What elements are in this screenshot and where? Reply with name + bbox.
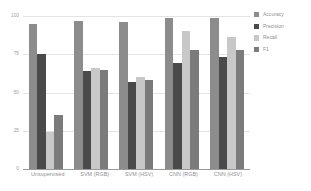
bar[interactable] bbox=[219, 57, 228, 169]
bar[interactable] bbox=[210, 18, 219, 169]
x-tick-label: CNN (HSV) bbox=[214, 172, 242, 184]
bar[interactable] bbox=[119, 22, 128, 169]
y-tick-label: 75 bbox=[14, 52, 19, 57]
bar[interactable] bbox=[227, 37, 236, 169]
bar[interactable] bbox=[190, 50, 199, 169]
bar[interactable] bbox=[74, 21, 83, 169]
legend-item[interactable]: F1 bbox=[254, 47, 284, 52]
legend-item[interactable]: Accuracy bbox=[254, 12, 284, 17]
bar[interactable] bbox=[128, 82, 137, 169]
bar[interactable] bbox=[182, 31, 191, 169]
axis-line-zero: 0 bbox=[23, 169, 250, 170]
legend-label: Recall bbox=[263, 35, 277, 40]
legend-label: F1 bbox=[263, 47, 269, 52]
bar-group bbox=[29, 16, 63, 169]
x-tick-label: CNN (RGB) bbox=[169, 172, 198, 184]
x-axis-tick-labels: UnsupervisedSVM (RGB)SVM (HSV)CNN (RGB)C… bbox=[23, 172, 250, 184]
bar[interactable] bbox=[236, 50, 245, 169]
plot-area: 0255075100 bbox=[23, 16, 250, 169]
legend-label: Accuracy bbox=[263, 12, 284, 17]
y-tick-label: 50 bbox=[14, 90, 19, 95]
bar-group bbox=[119, 16, 153, 169]
legend-swatch-icon bbox=[254, 47, 259, 52]
x-tick-label: SVM (HSV) bbox=[125, 172, 153, 184]
bar[interactable] bbox=[173, 63, 182, 169]
y-tick-label: 0 bbox=[16, 167, 19, 172]
legend-label: Precision bbox=[263, 24, 284, 29]
legend-swatch-icon bbox=[254, 24, 259, 29]
chart-legend: AccuracyPrecisionRecallF1 bbox=[254, 12, 284, 52]
bar[interactable] bbox=[83, 71, 92, 169]
x-tick-label: SVM (RGB) bbox=[80, 172, 109, 184]
bar[interactable] bbox=[37, 54, 46, 169]
bars-layer bbox=[23, 16, 250, 169]
bar[interactable] bbox=[165, 18, 174, 169]
bar[interactable] bbox=[145, 80, 154, 169]
legend-swatch-icon bbox=[254, 12, 259, 17]
y-tick-label: 100 bbox=[11, 14, 19, 19]
legend-item[interactable]: Recall bbox=[254, 35, 284, 40]
bar[interactable] bbox=[91, 68, 100, 169]
bar[interactable] bbox=[29, 24, 38, 169]
y-tick-label: 25 bbox=[14, 128, 19, 133]
legend-swatch-icon bbox=[254, 35, 259, 40]
bar-group bbox=[74, 16, 108, 169]
bar[interactable] bbox=[100, 70, 109, 169]
bar-group bbox=[165, 16, 199, 169]
bar[interactable] bbox=[46, 132, 55, 169]
legend-item[interactable]: Precision bbox=[254, 24, 284, 29]
bar[interactable] bbox=[136, 77, 145, 169]
bar-chart-figure: 0255075100 UnsupervisedSVM (RGB)SVM (HSV… bbox=[0, 0, 311, 191]
bar-group bbox=[210, 16, 244, 169]
bar[interactable] bbox=[54, 115, 63, 169]
x-tick-label: Unsupervised bbox=[31, 172, 65, 184]
